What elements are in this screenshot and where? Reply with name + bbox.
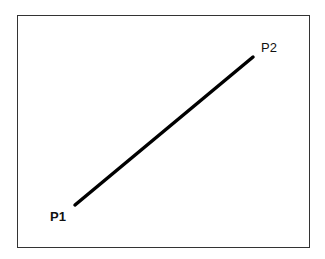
point-label-p2: P2 bbox=[261, 40, 277, 55]
line-segment-p1-p2 bbox=[75, 57, 253, 205]
line-canvas bbox=[0, 0, 325, 259]
point-label-p1: P1 bbox=[50, 209, 66, 224]
